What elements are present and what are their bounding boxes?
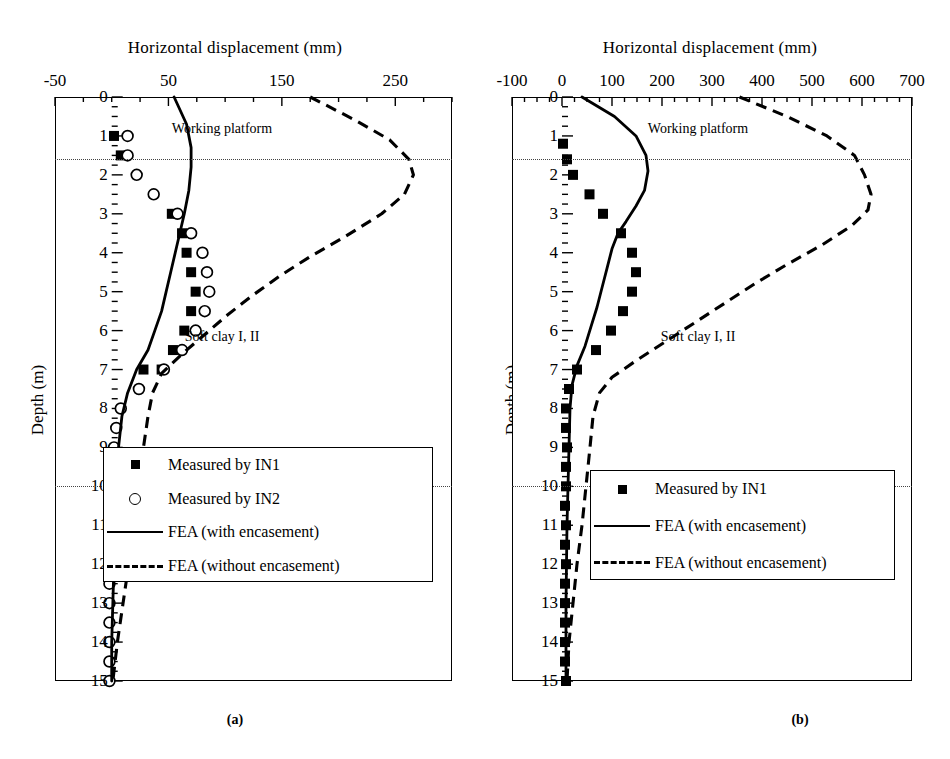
legend-item[interactable]: FEA (with encasement): [591, 513, 894, 539]
dashed-line-icon: [107, 565, 163, 568]
y-tick-label: 5: [550, 282, 559, 302]
data-point-in2: [148, 189, 159, 200]
filled-square-icon: [131, 460, 140, 469]
legend-label: FEA (without encasement): [166, 557, 340, 575]
y-tick-label: 2: [550, 165, 559, 185]
legend-item[interactable]: Measured by IN1: [591, 476, 894, 502]
legend-key: [591, 561, 653, 564]
y-tick-label: 7: [550, 360, 559, 380]
data-point-in2: [197, 247, 208, 258]
legend-item[interactable]: FEA (with encasement): [104, 519, 432, 545]
legend-label: FEA (with encasement): [166, 523, 319, 541]
solid-line-icon: [594, 525, 650, 527]
y-tick-label: 2: [99, 165, 108, 185]
legend-label: FEA (with encasement): [653, 517, 806, 535]
curve-fea-with-encasement: [566, 97, 648, 681]
open-circle-icon: [129, 493, 141, 505]
data-point-in1: [191, 287, 201, 297]
y-tick-label: 3: [99, 204, 108, 224]
data-point-in1: [186, 306, 196, 316]
y-tick-label: 13: [541, 593, 558, 613]
legend-key: [591, 485, 653, 494]
data-point-in2: [186, 228, 197, 239]
data-point-in2: [204, 286, 215, 297]
legend-label: Measured by IN1: [653, 480, 767, 498]
solid-line-icon: [107, 531, 163, 533]
data-point-in1: [109, 131, 119, 141]
legend-key: [104, 493, 166, 505]
y-tick-label: 15: [91, 671, 108, 691]
data-point-in1: [560, 540, 570, 550]
y-tick-label: 9: [550, 437, 559, 457]
plot-canvas-a: [0, 0, 480, 759]
chart-panel-a: Horizontal displacement (mm) -5050150250…: [0, 0, 470, 759]
data-point-in1: [591, 345, 601, 355]
data-point-in2: [131, 169, 142, 180]
legend-item[interactable]: FEA (without encasement): [591, 550, 894, 576]
data-point-in1: [182, 248, 192, 258]
soil-layer-label: Working platform: [172, 121, 272, 137]
data-point-in2: [134, 384, 145, 395]
y-tick-label: 7: [99, 360, 108, 380]
y-tick-label: 1: [550, 126, 559, 146]
dashed-line-icon: [594, 561, 650, 564]
data-point-in2: [104, 656, 115, 667]
y-tick-label: 8: [99, 398, 108, 418]
y-tick-label: 11: [542, 515, 558, 535]
data-point-in1: [618, 306, 628, 316]
data-point-in2: [202, 267, 213, 278]
y-tick-label: 12: [541, 554, 558, 574]
soil-layer-label: Working platform: [648, 121, 748, 137]
data-point-in2: [172, 208, 183, 219]
y-tick-label: 5: [99, 282, 108, 302]
data-point-in1: [562, 442, 572, 452]
curve-fea-with-encasement: [112, 97, 191, 681]
legend-key: [104, 460, 166, 469]
y-tick-label: 8: [550, 398, 559, 418]
legend-key: [104, 565, 166, 568]
y-tick-label: 1: [99, 126, 108, 146]
y-tick-label: 4: [550, 243, 559, 263]
curve-fea-without-encasement: [567, 97, 871, 681]
soil-layer-label: Soft clay I, II: [185, 329, 260, 345]
legend-key: [104, 531, 166, 533]
y-tick-label: 0: [550, 87, 559, 107]
data-point-in1: [585, 189, 595, 199]
data-point-in1: [606, 326, 616, 336]
data-point-in1: [598, 209, 608, 219]
soil-layer-boundary: [55, 159, 452, 160]
data-point-in1: [558, 139, 568, 149]
data-point-in1: [631, 267, 641, 277]
figure-root: Horizontal displacement (mm) -5050150250…: [0, 0, 950, 759]
y-tick-label: 3: [550, 204, 559, 224]
data-point-in1: [627, 287, 637, 297]
y-tick-label: 0: [99, 87, 108, 107]
legend-label: Measured by IN2: [166, 490, 280, 508]
y-tick-label: 6: [99, 321, 108, 341]
y-tick-label: 4: [99, 243, 108, 263]
legend-item[interactable]: Measured by IN1: [104, 452, 432, 478]
soil-layer-boundary: [512, 159, 912, 160]
data-point-in1: [568, 170, 578, 180]
y-tick-label: 15: [541, 671, 558, 691]
data-point-in1: [627, 248, 637, 258]
data-point-in2: [122, 131, 133, 142]
curve-fea-without-encasement: [113, 97, 414, 681]
y-tick-label: 14: [91, 632, 108, 652]
soil-layer-label: Soft clay I, II: [661, 329, 736, 345]
data-point-in2: [199, 306, 210, 317]
filled-square-icon: [618, 485, 627, 494]
chart-panel-b: Horizontal displacement (mm) -1000100200…: [470, 0, 950, 759]
legend-label: Measured by IN1: [166, 456, 280, 474]
legend-b: Measured by IN1FEA (with encasement)FEA …: [590, 470, 895, 580]
y-tick-label: 13: [91, 593, 108, 613]
legend-item[interactable]: FEA (without encasement): [104, 553, 432, 579]
y-tick-label: 6: [550, 321, 559, 341]
y-tick-label: 14: [541, 632, 558, 652]
legend-label: FEA (without encasement): [653, 554, 827, 572]
legend-key: [591, 525, 653, 527]
legend-item[interactable]: Measured by IN2: [104, 486, 432, 512]
data-point-in1: [186, 267, 196, 277]
legend-a: Measured by IN1Measured by IN2FEA (with …: [103, 447, 433, 582]
